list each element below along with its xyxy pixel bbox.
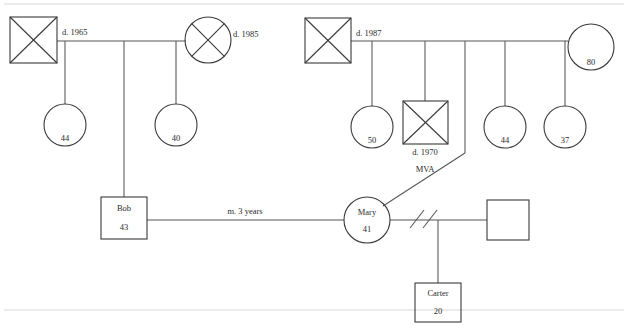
paternal-grandmother-death-label: d. 1985 xyxy=(233,29,259,39)
genogram-canvas: d. 1965 d. 1985 44 40 xyxy=(0,0,628,335)
divorce-slash-1 xyxy=(410,210,424,228)
right-family-links xyxy=(351,41,568,206)
person-carter[interactable]: Carter 20 xyxy=(415,283,461,322)
person-new-partner[interactable] xyxy=(487,200,529,240)
person-mary[interactable]: Mary 41 xyxy=(344,197,390,243)
marriage-duration-label: m. 3 years xyxy=(227,206,262,216)
mary-name: Mary xyxy=(358,207,377,217)
bob-age: 43 xyxy=(120,222,129,232)
carter-age: 20 xyxy=(434,306,443,316)
paternal-sibling-2-age: 40 xyxy=(172,133,181,143)
divorce-slash-2 xyxy=(423,210,437,228)
carter-name: Carter xyxy=(427,288,448,298)
person-paternal-sibling-1[interactable]: 44 xyxy=(44,104,86,146)
maternal-sibling-2-cause-label: MVA xyxy=(416,164,436,174)
person-maternal-sibling-4[interactable]: 37 xyxy=(544,106,586,148)
paternal-sibling-1-age: 44 xyxy=(61,133,70,143)
person-paternal-grandfather[interactable] xyxy=(10,17,57,63)
person-paternal-grandmother[interactable] xyxy=(185,17,231,63)
maternal-grandmother-age: 80 xyxy=(587,57,596,67)
person-maternal-sibling-3[interactable]: 44 xyxy=(484,106,526,148)
maternal-sibling-2-death-label: d. 1970 xyxy=(412,147,438,157)
person-maternal-sibling-1[interactable]: 50 xyxy=(351,106,393,148)
bob-name: Bob xyxy=(117,203,131,213)
maternal-grandfather-death-label: d. 1987 xyxy=(356,28,382,38)
maternal-sibling-4-age: 37 xyxy=(561,135,570,145)
right-mary-diagonal xyxy=(383,153,465,206)
person-paternal-sibling-2[interactable]: 40 xyxy=(155,104,197,146)
person-maternal-sibling-2[interactable] xyxy=(403,101,448,144)
person-maternal-grandfather[interactable] xyxy=(305,18,351,63)
person-maternal-grandmother[interactable]: 80 xyxy=(568,24,614,70)
genogram-svg: d. 1965 d. 1985 44 40 xyxy=(0,0,628,335)
couple-generation-links xyxy=(147,210,487,283)
maternal-sibling-1-age: 50 xyxy=(368,135,377,145)
mary-age: 41 xyxy=(363,224,372,234)
person-bob[interactable]: Bob 43 xyxy=(101,197,147,239)
new-partner-square[interactable] xyxy=(487,200,529,240)
left-family-links xyxy=(57,41,186,197)
mary-circle[interactable] xyxy=(344,197,390,243)
paternal-grandfather-death-label: d. 1965 xyxy=(62,27,88,37)
page-frame xyxy=(4,4,624,310)
maternal-sibling-3-age: 44 xyxy=(501,135,510,145)
